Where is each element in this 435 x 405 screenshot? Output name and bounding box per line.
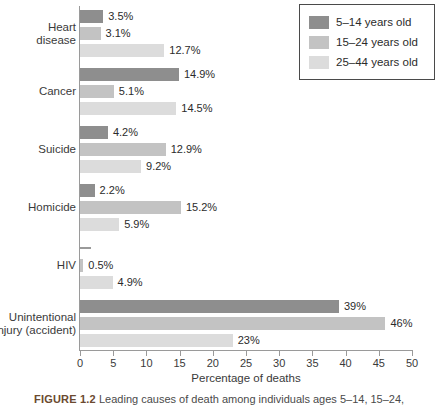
x-tick xyxy=(279,351,280,356)
bar-value-label: 14.9% xyxy=(184,68,215,81)
bar-value-label: 46% xyxy=(390,317,412,330)
bar-group: Suicide4.2%12.9%9.2% xyxy=(0,126,428,173)
legend-swatch-icon-5-14 xyxy=(309,16,329,29)
x-tick-label: 35 xyxy=(306,357,318,369)
x-tick-label: 50 xyxy=(406,357,418,369)
bar-value-label: 23% xyxy=(238,334,260,347)
bar xyxy=(80,85,114,98)
x-tick xyxy=(412,351,413,356)
category-label: Heart disease xyxy=(0,21,76,46)
category-label: Homicide xyxy=(0,201,76,214)
y-axis-line xyxy=(79,6,80,350)
bar-group: Homicide2.2%15.2%5.9% xyxy=(0,184,428,231)
bar xyxy=(80,68,179,81)
bar-group: HIV0.5%4.9% xyxy=(0,242,428,289)
bar-value-label: 4.2% xyxy=(113,126,138,139)
x-tick xyxy=(146,351,147,356)
x-tick-label: 40 xyxy=(339,357,351,369)
category-label: Unintentional injury (accident) xyxy=(0,311,76,336)
bar xyxy=(80,143,166,156)
x-tick-label: 0 xyxy=(77,357,83,369)
bar xyxy=(80,259,83,272)
bar-value-label: 15.2% xyxy=(186,201,217,214)
bar-value-label: 9.2% xyxy=(146,160,171,173)
legend-label-5-14: 5–14 years old xyxy=(336,16,411,28)
x-tick xyxy=(312,351,313,356)
bar xyxy=(80,44,164,57)
x-tick-label: 30 xyxy=(273,357,285,369)
figure-caption-number: FIGURE 1.2 xyxy=(34,393,96,405)
bar-value-label: 0.5% xyxy=(88,259,113,272)
bar xyxy=(80,276,113,289)
legend-swatch-icon-15-24 xyxy=(309,36,329,49)
x-tick-label: 45 xyxy=(373,357,385,369)
x-tick xyxy=(213,351,214,356)
bar-value-label: 5.1% xyxy=(119,85,144,98)
bar xyxy=(80,184,95,197)
category-label: Cancer xyxy=(0,85,76,98)
legend-label-25-44: 25–44 years old xyxy=(336,56,418,68)
x-axis-title: Percentage of deaths xyxy=(79,372,413,384)
bar xyxy=(80,27,101,40)
legend-item-25-44: 25–44 years old xyxy=(300,52,434,72)
figure-caption: FIGURE 1.2 Leading causes of death among… xyxy=(34,393,434,405)
category-label: Suicide xyxy=(0,143,76,156)
bar-value-label: 3.1% xyxy=(106,27,131,40)
bar xyxy=(80,126,108,139)
category-label: HIV xyxy=(0,259,76,272)
x-tick-label: 10 xyxy=(140,357,152,369)
bar xyxy=(80,201,181,214)
x-tick xyxy=(246,351,247,356)
bar xyxy=(80,10,103,23)
legend-item-15-24: 15–24 years old xyxy=(300,32,434,52)
x-tick-label: 20 xyxy=(207,357,219,369)
bar xyxy=(80,218,119,231)
bar-value-label: 39% xyxy=(344,300,366,313)
figure-caption-text: Leading causes of death among individual… xyxy=(99,393,404,405)
x-tick-label: 5 xyxy=(110,357,116,369)
bar-value-label: 3.5% xyxy=(108,10,133,23)
x-tick xyxy=(80,351,81,356)
bar xyxy=(80,160,141,173)
bar-near-zero-dash xyxy=(80,247,91,249)
bar xyxy=(80,317,385,330)
x-tick xyxy=(346,351,347,356)
bar-value-label: 4.9% xyxy=(118,276,143,289)
bar-value-label: 12.7% xyxy=(169,44,200,57)
bar-value-label: 14.5% xyxy=(181,102,212,115)
bar xyxy=(80,300,339,313)
x-tick xyxy=(180,351,181,356)
legend-swatch-icon-25-44 xyxy=(309,56,329,69)
bar-value-label: 5.9% xyxy=(124,218,149,231)
bar xyxy=(80,102,176,115)
chart-legend: 5–14 years old 15–24 years old 25–44 yea… xyxy=(299,4,435,80)
x-tick xyxy=(113,351,114,356)
x-tick-label: 15 xyxy=(173,357,185,369)
legend-label-15-24: 15–24 years old xyxy=(336,36,418,48)
x-tick xyxy=(379,351,380,356)
bar-group: Unintentional injury (accident)39%46%23% xyxy=(0,300,428,347)
x-tick-label: 25 xyxy=(240,357,252,369)
legend-item-5-14: 5–14 years old xyxy=(300,12,434,32)
bar-value-label: 2.2% xyxy=(100,184,125,197)
bar-value-label: 12.9% xyxy=(171,143,202,156)
bar xyxy=(80,334,233,347)
